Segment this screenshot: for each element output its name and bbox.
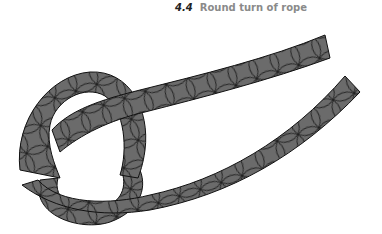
- rope-illustration: [0, 0, 382, 234]
